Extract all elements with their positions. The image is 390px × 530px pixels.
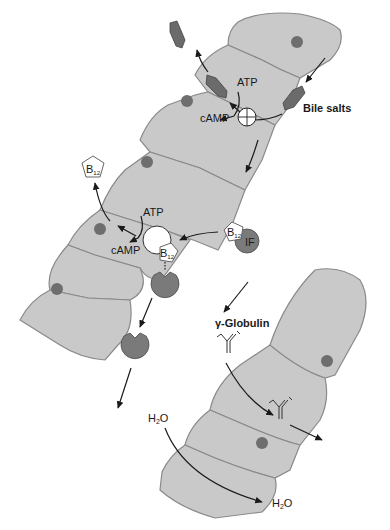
arrow [224,282,248,312]
bile-salt-molecule [170,21,185,48]
transport-diagram: ATP cAMP Bile salts IF B12 B12 ATP cAMP … [0,0,390,530]
free-b12: B12 [82,156,104,177]
nucleus [291,36,303,48]
cell-7 [20,290,131,360]
h2o-out-label: H2O [272,497,293,510]
receptor [151,272,179,298]
arrow [140,298,152,327]
nucleus [51,283,63,295]
nucleus [141,156,153,168]
nucleus [181,95,193,107]
bile-salts-label: Bile salts [303,102,351,114]
camp-label: cAMP [200,112,229,124]
nucleus [94,223,106,235]
gamma-globulin-label: γ-Globulin [215,317,270,329]
receptor [121,333,149,359]
atp-label: ATP [143,206,164,218]
arrow [118,368,131,408]
h2o-in-label: H2O [148,412,169,425]
camp-label: cAMP [111,244,140,256]
nucleus [256,437,268,449]
lower-epithelium [160,269,366,518]
atp-label: ATP [237,76,258,88]
antibody-icon [217,331,240,353]
if-label: IF [245,236,255,248]
nucleus [321,355,333,367]
